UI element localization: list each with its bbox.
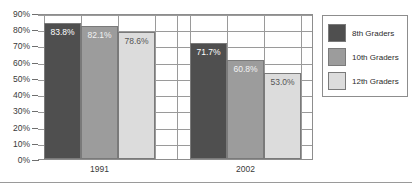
gridline-vertical	[155, 15, 156, 159]
bar: 82.1%	[81, 26, 118, 159]
bar-value-label: 78.6%	[119, 36, 154, 46]
legend-item-label: 12th Graders	[352, 77, 399, 86]
x-axis-category-label: 2002	[190, 164, 301, 174]
bar-value-label: 71.7%	[191, 47, 226, 57]
legend-item[interactable]: 8th Graders	[328, 22, 406, 44]
bar-chart: 83.8%82.1%78.6%71.7%60.8%53.0% 0%10%20%3…	[0, 0, 412, 186]
bottom-divider	[0, 182, 412, 183]
legend-item[interactable]: 12th Graders	[328, 70, 406, 92]
y-axis-tick	[32, 30, 38, 31]
legend-swatch-icon	[328, 72, 346, 90]
plot-area: 83.8%82.1%78.6%71.7%60.8%53.0%	[38, 14, 313, 160]
gridline-vertical	[301, 15, 302, 159]
y-axis-tick	[32, 144, 38, 145]
bar: 71.7%	[190, 43, 227, 159]
bar-value-label: 53.0%	[265, 77, 300, 87]
gridline-horizontal	[38, 15, 312, 16]
y-axis-tick	[32, 128, 38, 129]
gridline-vertical	[177, 15, 178, 159]
y-axis-tick-label: 10%	[0, 139, 30, 149]
y-axis-tick-label: 40%	[0, 90, 30, 100]
y-axis-tick-label: 30%	[0, 106, 30, 116]
legend-item-label: 8th Graders	[352, 29, 394, 38]
y-axis-tick-label: 70%	[0, 41, 30, 51]
y-axis-tick-label: 50%	[0, 74, 30, 84]
bar-value-label: 82.1%	[82, 30, 117, 40]
y-axis-tick	[32, 79, 38, 80]
bar: 83.8%	[44, 23, 81, 159]
y-axis-tick-label: 90%	[0, 9, 30, 19]
legend-item[interactable]: 10th Graders	[328, 46, 406, 68]
legend: 8th Graders10th Graders12th Graders	[322, 15, 408, 97]
bar: 53.0%	[264, 73, 301, 159]
y-axis-tick-label: 60%	[0, 58, 30, 68]
bar-value-label: 83.8%	[45, 27, 80, 37]
y-axis-tick	[32, 95, 38, 96]
legend-item-label: 10th Graders	[352, 53, 399, 62]
y-axis-tick	[32, 14, 38, 15]
y-axis-tick-label: 80%	[0, 25, 30, 35]
legend-swatch-icon	[328, 24, 346, 42]
y-axis-tick	[32, 63, 38, 64]
bar: 60.8%	[227, 60, 264, 159]
bar-value-label: 60.8%	[228, 64, 263, 74]
legend-swatch-icon	[328, 48, 346, 66]
y-axis-tick-label: 0%	[0, 155, 30, 165]
bar: 78.6%	[118, 32, 155, 160]
x-axis-category-label: 1991	[44, 164, 155, 174]
y-axis-tick	[32, 111, 38, 112]
y-axis-tick	[32, 160, 38, 161]
y-axis-tick	[32, 46, 38, 47]
y-axis-tick-label: 20%	[0, 123, 30, 133]
